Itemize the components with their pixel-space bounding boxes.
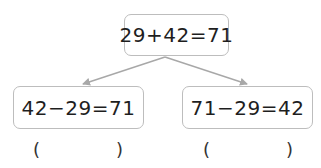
right-answer-close-paren: ) <box>286 138 293 162</box>
arrow-to-right-box <box>165 57 247 84</box>
left-answer-blank[interactable] <box>45 140 115 162</box>
left-answer-open-paren: ( <box>33 138 40 162</box>
right-equation: 71−29=42 <box>191 96 305 120</box>
arrow-to-left-box <box>83 57 165 84</box>
right-answer-open-paren: ( <box>203 138 210 162</box>
left-equation: 42−29=71 <box>22 96 136 120</box>
right-equation-box: 71−29=42 <box>182 86 313 129</box>
top-equation-box: 29+42=71 <box>124 14 229 56</box>
left-equation-box: 42−29=71 <box>13 86 144 129</box>
left-answer-close-paren: ) <box>116 138 123 162</box>
top-equation: 29+42=71 <box>120 23 234 47</box>
right-answer-blank[interactable] <box>215 140 285 162</box>
